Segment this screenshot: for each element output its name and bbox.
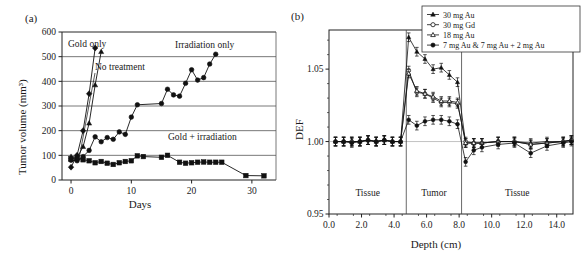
y-tick-label: 0 (51, 175, 56, 185)
data-point-filled-square (87, 158, 92, 163)
data-point-filled-diamond (86, 91, 92, 97)
data-point-open-triangle (374, 139, 378, 143)
data-point-open-triangle (415, 89, 419, 93)
data-point-filled-square (207, 160, 212, 165)
data-point-open-circle (415, 90, 419, 94)
data-point-filled-square (244, 173, 249, 178)
series-line-0 (71, 48, 95, 167)
data-point-filled-circle (569, 140, 573, 144)
data-point-open-circle (529, 143, 533, 147)
data-point-filled-circle (382, 138, 386, 142)
data-point-filled-circle (165, 87, 170, 92)
data-point-filled-square (201, 160, 206, 165)
data-point-filled-circle (177, 94, 182, 99)
x-tick-label: 0.0 (323, 220, 335, 230)
data-point-filled-circle (456, 122, 460, 126)
data-point-filled-triangle (382, 138, 386, 142)
data-point-filled-circle (407, 118, 411, 122)
data-point-filled-circle (201, 75, 206, 80)
data-point-filled-triangle (464, 141, 468, 145)
data-point-filled-circle (159, 101, 164, 106)
x-tick-label: 2.0 (356, 220, 368, 230)
y-tick-label: 500 (42, 52, 57, 62)
data-point-filled-circle (195, 78, 200, 83)
annotation-gold-irradiation: Gold + irradiation (168, 132, 237, 142)
data-point-filled-square (189, 160, 194, 165)
data-point-open-circle (545, 141, 549, 145)
data-point-filled-circle (431, 43, 435, 47)
data-point-open-triangle (545, 141, 549, 145)
data-point-open-circle (423, 92, 427, 96)
panel-b-axes: 0.951.001.050.02.04.06.08.010.012.014.0 (307, 30, 573, 230)
data-point-filled-triangle (333, 139, 337, 143)
data-point-filled-circle (423, 119, 427, 123)
data-point-filled-circle (374, 140, 378, 144)
data-point-filled-circle (75, 158, 80, 163)
data-point-filled-square (141, 154, 146, 159)
data-point-filled-circle (69, 158, 74, 163)
data-point-filled-circle (213, 52, 218, 57)
data-point-filled-triangle (496, 139, 500, 143)
y-tick-label: 1.00 (307, 137, 324, 147)
data-point-open-triangle (464, 141, 468, 145)
data-point-open-triangle (382, 138, 386, 142)
data-point-filled-triangle (415, 50, 419, 54)
data-point-open-circle (561, 140, 565, 144)
data-point-filled-triangle (398, 139, 402, 143)
data-point-filled-diamond (92, 45, 98, 51)
panel-a-series (68, 45, 266, 178)
data-point-filled-square (135, 154, 140, 159)
data-point-open-triangle (455, 100, 459, 104)
data-point-filled-square (262, 174, 267, 179)
data-point-open-triangle (431, 94, 435, 98)
data-point-filled-triangle (423, 57, 427, 61)
series-line-1 (336, 71, 572, 145)
data-point-filled-circle (334, 140, 338, 144)
data-point-filled-square (165, 153, 170, 158)
y-tick-label: 400 (42, 77, 57, 87)
panel-b-series (333, 33, 573, 166)
data-point-open-circle (513, 140, 517, 144)
data-point-filled-triangle (99, 49, 104, 53)
data-point-filled-triangle (374, 139, 378, 143)
data-point-filled-triangle (350, 139, 354, 143)
data-point-filled-square (219, 160, 224, 165)
data-point-open-triangle (423, 92, 427, 96)
series-line-3 (336, 120, 572, 162)
data-point-open-circle (399, 140, 403, 144)
data-point-filled-square (75, 156, 80, 161)
data-point-filled-circle (87, 148, 92, 153)
annotation-no-treatment: No treatment (95, 62, 145, 72)
data-point-open-triangle (342, 139, 346, 143)
panel-b-x-axis-title: Depth (cm) (396, 238, 476, 250)
data-point-open-circle (569, 138, 573, 142)
data-point-open-triangle (390, 139, 394, 143)
data-point-filled-square (123, 159, 128, 164)
x-tick-label: 14.0 (548, 220, 565, 230)
data-point-filled-triangle (431, 67, 435, 71)
data-point-filled-circle (81, 154, 86, 159)
data-point-open-triangle (350, 139, 354, 143)
data-point-open-triangle (366, 138, 370, 142)
data-point-open-circle (358, 140, 362, 144)
data-point-filled-square (99, 159, 104, 164)
data-point-filled-circle (207, 62, 212, 67)
data-point-filled-circle (513, 141, 517, 145)
x-tick-label: 4.0 (388, 220, 400, 230)
data-point-filled-triangle (93, 82, 98, 86)
data-point-filled-circle (545, 144, 549, 148)
data-point-open-circle (431, 23, 435, 27)
data-point-open-circle (464, 140, 468, 144)
data-point-open-circle (407, 69, 411, 73)
data-point-filled-circle (439, 118, 443, 122)
data-point-filled-triangle (439, 65, 443, 69)
data-point-open-circle (342, 140, 346, 144)
panel-a-plot: 01002003004005006000102030Gold onlyNo tr… (0, 0, 292, 262)
data-point-open-circle (431, 96, 435, 100)
data-point-filled-square (129, 158, 134, 163)
data-point-filled-triangle (447, 73, 451, 77)
data-point-filled-circle (561, 141, 565, 145)
data-point-filled-triangle (431, 12, 436, 16)
x-tick-label: 8.0 (453, 220, 465, 230)
data-point-open-triangle (447, 99, 451, 103)
